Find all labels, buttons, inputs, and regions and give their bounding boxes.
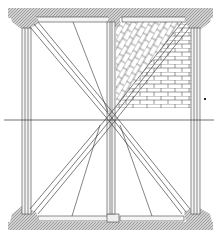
center-post	[107, 22, 115, 214]
right-post	[191, 28, 200, 214]
framed-wall-diagram	[0, 0, 221, 238]
marker-dot	[204, 98, 206, 100]
brick-infill	[116, 22, 193, 108]
left-post	[22, 28, 31, 214]
